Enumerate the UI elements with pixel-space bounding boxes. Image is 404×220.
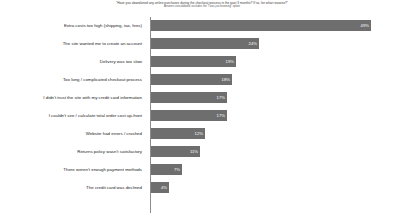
category-label: The credit card was declined <box>86 179 146 197</box>
bar-row: 49% <box>150 17 398 35</box>
chart-title: "Have you abandoned any online purchases… <box>0 1 404 5</box>
bar-row: 18% <box>150 71 398 89</box>
bar-rows: 49%24%19%18%17%17%12%11%7%4% <box>150 17 398 213</box>
bar-value-label: 11% <box>151 146 200 157</box>
category-label: Too long / complicated checkout process <box>63 71 146 89</box>
category-axis-labels: Extra costs too high (shipping, tax, fee… <box>0 17 146 213</box>
category-label: Delivery was too slow <box>100 53 146 71</box>
chart-subtitle: Answers consolidated; excludes the "I wa… <box>0 5 404 9</box>
bar-row: 17% <box>150 107 398 125</box>
plot-area: 49%24%19%18%17%17%12%11%7%4% <box>150 17 398 213</box>
bar-row: 19% <box>150 53 398 71</box>
category-label: The site wanted me to create an account <box>63 35 146 53</box>
category-label: There weren't enough payment methods <box>63 161 146 179</box>
bar-value-label: 18% <box>151 74 232 85</box>
bar-row: 4% <box>150 179 398 197</box>
bar-row: 24% <box>150 35 398 53</box>
bar-value-label: 17% <box>151 92 227 103</box>
category-label: Returns policy wasn't satisfactory <box>77 143 146 161</box>
bar-row: 17% <box>150 89 398 107</box>
category-label: Extra costs too high (shipping, tax, fee… <box>64 17 146 35</box>
bar-value-label: 17% <box>151 110 227 121</box>
bar-value-label: 19% <box>151 56 236 67</box>
bar-value-label: 7% <box>151 164 182 175</box>
bar-value-label: 49% <box>151 20 371 31</box>
category-label: I didn't trust the site with my credit c… <box>43 89 146 107</box>
bar-value-label: 24% <box>151 38 259 49</box>
bar-value-label: 4% <box>151 182 169 193</box>
chart-title-block: "Have you abandoned any online purchases… <box>0 1 404 9</box>
category-label: Website had errors / crashed <box>86 125 146 143</box>
bar-row: 12% <box>150 125 398 143</box>
bar-value-label: 12% <box>151 128 205 139</box>
category-label: I couldn't see / calculate total order c… <box>49 107 146 125</box>
bar-chart: "Have you abandoned any online purchases… <box>0 0 404 220</box>
bar-row: 11% <box>150 143 398 161</box>
bar-row: 7% <box>150 161 398 179</box>
